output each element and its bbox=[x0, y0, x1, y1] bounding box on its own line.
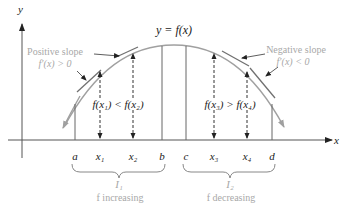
increasing-decreasing-function-diagram: y x y = f(x) f(x₁) < f(x₂) f(x₃) > f(x₄)… bbox=[0, 0, 342, 208]
decreasing-relation-label: f(x₃) > f(x₄) bbox=[204, 98, 255, 111]
interval-brace-2 bbox=[183, 164, 275, 178]
increasing-relation-label: f(x₁) < f(x₂) bbox=[92, 98, 143, 111]
point-label-c: c bbox=[184, 150, 189, 162]
negative-slope-label: Negative slope bbox=[266, 44, 326, 55]
positive-slope-label: Positive slope bbox=[27, 46, 83, 57]
positive-slope-derivative-label: f′(x) > 0 bbox=[39, 58, 72, 70]
y-axis-label: y bbox=[17, 3, 23, 15]
tangent-line-negative-1 bbox=[222, 51, 249, 66]
interval-description-2: f decreasing bbox=[207, 192, 256, 203]
point-label-a: a bbox=[72, 150, 78, 162]
x-axis-label: x bbox=[333, 134, 339, 146]
negative-slope-pointer-2 bbox=[266, 67, 278, 76]
point-label-x3: x₃ bbox=[209, 150, 219, 162]
interval-name-2: I₂ bbox=[225, 178, 234, 190]
point-label-x4: x₄ bbox=[242, 150, 252, 162]
point-label-b: b bbox=[159, 150, 165, 162]
function-curve bbox=[64, 45, 284, 127]
positive-slope-pointer-2 bbox=[77, 71, 86, 80]
diagram-canvas: y x y = f(x) f(x₁) < f(x₂) f(x₃) > f(x₄)… bbox=[0, 0, 342, 208]
negative-slope-derivative-label: f′(x) < 0 bbox=[277, 56, 310, 68]
function-curve-left-end bbox=[63, 96, 80, 128]
function-title: y = f(x) bbox=[155, 23, 192, 37]
positive-slope-pointer-1 bbox=[94, 54, 119, 56]
interval-description-1: f increasing bbox=[97, 192, 144, 203]
interval-brace-1 bbox=[72, 164, 165, 178]
interval-name-1: I₁ bbox=[114, 178, 123, 190]
point-label-x2: x₂ bbox=[128, 150, 138, 162]
point-label-d: d bbox=[269, 150, 275, 162]
point-label-x1: x₁ bbox=[95, 150, 105, 162]
negative-slope-pointer-1 bbox=[242, 54, 265, 58]
